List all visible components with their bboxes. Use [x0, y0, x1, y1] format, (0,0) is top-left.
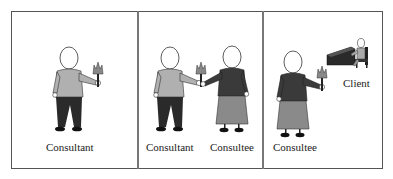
consultee-figure-icon	[273, 49, 333, 145]
label-consultant: Consultant	[146, 141, 194, 153]
consultant-figure-icon	[49, 45, 109, 140]
label-client: Client	[343, 77, 370, 89]
panel-consultant-alone: Consultant	[11, 11, 137, 169]
label-consultee: Consultee	[210, 141, 254, 153]
client-at-desk-icon	[325, 35, 375, 75]
label-consultant: Consultant	[46, 141, 94, 153]
panel-consultant-consultee: Consultant Consultee	[138, 11, 262, 169]
consultee-figure-icon	[198, 44, 258, 140]
panel-consultee-client: Client Consultee	[263, 11, 383, 169]
label-consultee: Consultee	[273, 141, 317, 153]
